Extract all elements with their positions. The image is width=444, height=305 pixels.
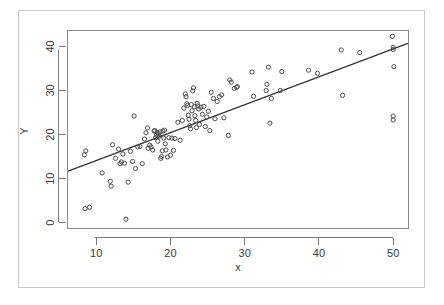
scatter-plot: 010203040 Y 1020304050 x (0, 0, 444, 305)
data-point (390, 34, 394, 38)
y-axis-ticks (59, 46, 66, 222)
data-point (250, 70, 254, 74)
x-tick-label: 30 (239, 247, 251, 259)
data-point (87, 205, 91, 209)
data-point (130, 159, 134, 163)
data-point (269, 96, 273, 100)
data-point (306, 68, 310, 72)
data-point (163, 142, 167, 146)
x-axis-title: x (235, 261, 241, 273)
data-point (208, 129, 212, 133)
data-point (113, 156, 117, 160)
regression-line (68, 43, 408, 171)
data-point (315, 71, 319, 75)
data-point (193, 114, 197, 118)
data-point (339, 48, 343, 52)
data-point (173, 136, 177, 140)
data-point (121, 152, 125, 156)
data-point (176, 120, 180, 124)
data-point (133, 166, 137, 170)
data-point (190, 109, 194, 113)
data-point (341, 93, 345, 97)
data-point (124, 217, 128, 221)
data-point (226, 133, 230, 137)
x-tick-label: 50 (387, 247, 399, 259)
data-point (251, 94, 255, 98)
x-axis-ticks (96, 238, 393, 245)
data-point (132, 114, 136, 118)
data-point (171, 148, 175, 152)
x-tick-label: 20 (164, 247, 176, 259)
y-tick-label: 40 (44, 40, 56, 52)
y-tick-label: 10 (44, 173, 56, 185)
data-point (156, 139, 160, 143)
data-point (145, 126, 149, 130)
data-point (265, 82, 269, 86)
data-point (268, 121, 272, 125)
x-tick-label: 40 (313, 247, 325, 259)
data-point (200, 112, 204, 116)
x-tick-label: 10 (90, 247, 102, 259)
data-point (358, 51, 362, 55)
data-point (197, 122, 201, 126)
data-point (211, 96, 215, 100)
data-point (144, 131, 148, 135)
data-point (100, 171, 104, 175)
plot-frame (68, 31, 409, 229)
data-point (206, 109, 210, 113)
data-point (209, 90, 213, 94)
data-point (84, 149, 88, 153)
data-point (128, 149, 132, 153)
data-point (213, 117, 217, 121)
data-point (180, 118, 184, 122)
x-axis: 1020304050 x (90, 238, 399, 274)
data-point (203, 125, 207, 129)
data-point (83, 207, 87, 211)
y-axis: 010203040 Y (18, 40, 66, 225)
data-points (82, 34, 396, 221)
data-point (142, 137, 146, 141)
data-point (178, 138, 182, 142)
data-point (110, 143, 114, 147)
x-axis-tick-labels: 1020304050 (90, 247, 399, 259)
data-point (108, 179, 112, 183)
figure-root: 010203040 Y 1020304050 x (0, 0, 444, 305)
data-point (140, 162, 144, 166)
data-point (280, 69, 284, 73)
data-point (222, 116, 226, 120)
y-axis-title: Y (18, 127, 30, 135)
data-point (109, 184, 113, 188)
data-point (184, 95, 188, 99)
data-point (116, 147, 120, 151)
data-point (194, 118, 198, 122)
y-tick-label: 20 (44, 128, 56, 140)
data-point (392, 65, 396, 69)
y-axis-tick-labels: 010203040 (44, 40, 56, 225)
data-point (162, 136, 166, 140)
data-point (264, 88, 268, 92)
data-point (215, 99, 219, 103)
y-tick-label: 30 (44, 84, 56, 96)
data-point (266, 65, 270, 69)
y-tick-label: 0 (44, 220, 56, 226)
data-point (126, 180, 130, 184)
